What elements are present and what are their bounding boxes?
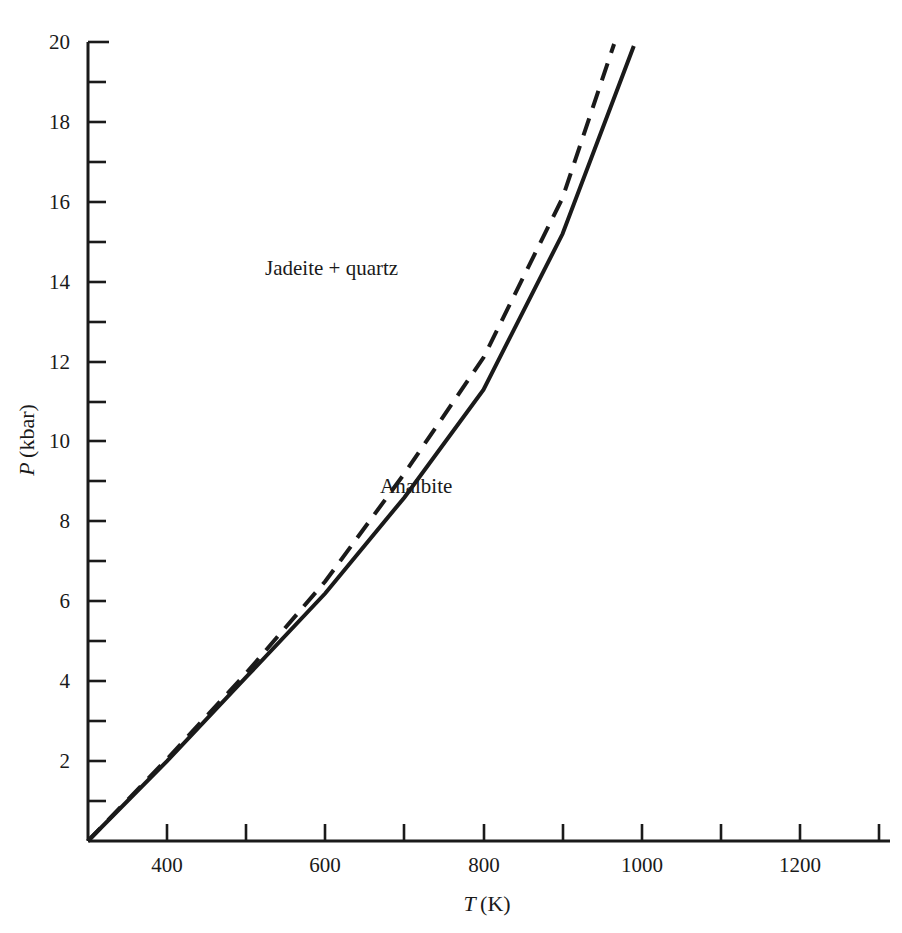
curve-dashed-boundary: [88, 44, 614, 841]
y-tick-label-14: 14: [36, 272, 70, 293]
y-tick-label-6: 6: [36, 591, 70, 612]
figure-container: 20 18 16 14 12 10 8 6 4 2 400 600 800 10…: [0, 0, 902, 933]
y-tick-label-16: 16: [36, 192, 70, 213]
x-tick-marks: [167, 824, 879, 841]
x-axis-title: T (K): [463, 893, 510, 915]
y-tick-label-12: 12: [36, 352, 70, 373]
x-tick-label-1000: 1000: [621, 855, 663, 876]
x-tick-label-600: 600: [309, 855, 341, 876]
x-tick-label-1200: 1200: [779, 855, 821, 876]
y-tick-label-8: 8: [36, 511, 70, 532]
y-tick-label-4: 4: [36, 671, 70, 692]
x-axis-title-symbol: T: [463, 891, 475, 916]
y-axis-title-symbol: P: [14, 462, 39, 475]
region-label-jadeite-quartz: Jadeite + quartz: [265, 258, 398, 279]
y-tick-label-20: 20: [36, 32, 70, 53]
y-tick-label-10: 10: [36, 431, 70, 452]
y-tick-label-18: 18: [36, 112, 70, 133]
y-axis-title: P (kbar): [16, 404, 38, 476]
y-tick-marks: [88, 42, 109, 801]
plot-canvas: [0, 0, 902, 933]
region-label-analbite: Analbite: [380, 476, 452, 497]
curve-solid-boundary: [88, 46, 634, 841]
x-tick-label-400: 400: [151, 855, 183, 876]
x-tick-label-800: 800: [468, 855, 500, 876]
y-tick-label-2: 2: [36, 751, 70, 772]
